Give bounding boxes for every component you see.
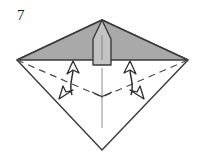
origami-figure bbox=[0, 0, 205, 158]
origami-diagram-canvas: 7 bbox=[0, 0, 205, 158]
